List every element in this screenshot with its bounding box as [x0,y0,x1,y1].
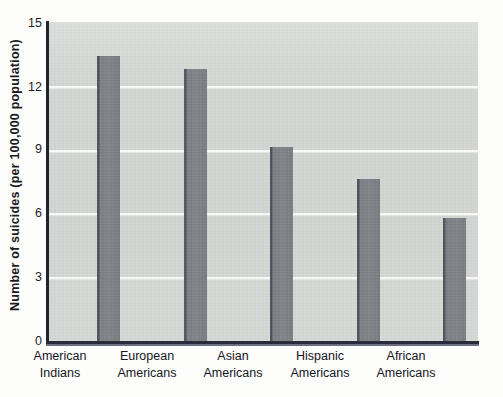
bar-european-americans [184,69,207,341]
x-label-line1: European [120,349,174,363]
y-tick-12: 12 [2,80,46,94]
plot-area [48,22,478,341]
y-tick-3: 3 [2,270,46,284]
x-label-line1: American [34,349,87,363]
bar-african-americans [443,218,466,341]
x-label-line1: Asian [217,349,248,363]
y-tick-6: 6 [2,206,46,220]
y-tick-9: 9 [2,142,46,156]
bar-asian-americans [270,147,293,341]
y-axis-ticks: 15 12 9 6 3 0 [0,0,46,397]
y-tick-15: 15 [2,16,46,30]
y-axis-line [46,21,49,342]
bar-american-indians [97,56,120,341]
x-label-african-americans: African Americans [351,348,461,381]
chart-figure: Number of suicides (per 100,000 populati… [0,0,503,397]
x-axis-underline [46,344,479,346]
x-label-line1: African [387,349,426,363]
bar-hispanic-americans [357,179,380,341]
x-label-line1: Hispanic [296,349,344,363]
y-tick-0: 0 [2,334,46,348]
x-label-line2: Americans [351,365,461,382]
